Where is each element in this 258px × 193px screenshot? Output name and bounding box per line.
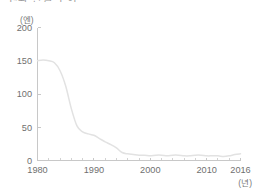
y-axis-tick-labels: 050100150200 bbox=[17, 23, 32, 166]
x-tick-label: 1980 bbox=[27, 165, 47, 175]
y-tick-label: 50 bbox=[22, 123, 32, 133]
x-tick-label: 2000 bbox=[140, 165, 160, 175]
x-tick-label: 1990 bbox=[84, 165, 104, 175]
y-tick-label: 100 bbox=[17, 89, 32, 99]
y-tick-label: 200 bbox=[17, 23, 32, 33]
chart-plot-area: 050100150200 19801990200020102016 bbox=[0, 0, 258, 193]
x-tick-label: 2016 bbox=[230, 165, 250, 175]
x-tick-label: 2010 bbox=[196, 165, 216, 175]
y-tick-label: 150 bbox=[17, 56, 32, 66]
x-axis-unit-label: (년) bbox=[238, 176, 252, 188]
data-series-line bbox=[38, 60, 241, 156]
x-axis-tick-labels: 19801990200020102016 bbox=[27, 165, 250, 175]
line-chart-figure: 엔화 환율 추이 (엔) 050100150200 19801990200020… bbox=[0, 0, 258, 193]
